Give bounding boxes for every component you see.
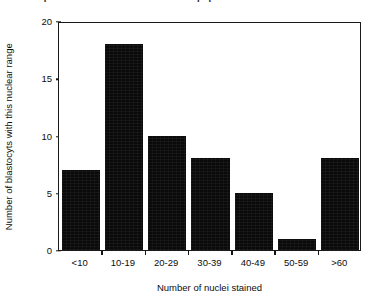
y-axis-tick-label: 20 bbox=[41, 17, 52, 27]
bar bbox=[62, 170, 100, 250]
x-axis-tick-label: <10 bbox=[72, 258, 88, 268]
y-axis-tick-labels: 05101520 bbox=[26, 22, 52, 251]
x-axis-tick-mark bbox=[231, 250, 233, 255]
y-axis-tick-label: 5 bbox=[47, 189, 52, 199]
x-axis-tick-marks bbox=[58, 250, 361, 256]
bar bbox=[321, 158, 359, 250]
x-axis-tick-label: 10-19 bbox=[111, 258, 135, 268]
bar bbox=[278, 239, 316, 250]
x-axis-tick-label: 40-49 bbox=[241, 258, 265, 268]
y-axis-title-text: Number of blastocyts with this nuclear r… bbox=[3, 43, 13, 230]
bar bbox=[235, 193, 273, 250]
x-axis-tick-mark bbox=[274, 250, 276, 255]
bars-layer bbox=[59, 23, 360, 250]
x-axis-tick-mark bbox=[318, 250, 320, 255]
x-axis-tick-mark bbox=[145, 250, 147, 255]
y-axis-tick-label: 0 bbox=[47, 246, 52, 256]
y-axis-title: Number of blastocyts with this nuclear r… bbox=[0, 22, 16, 251]
bar-chart-figure: Number of blastocyts with this nuclear r… bbox=[0, 0, 375, 305]
bar bbox=[105, 44, 143, 250]
x-axis-tick-label: 20-29 bbox=[154, 258, 178, 268]
x-axis-tick-mark bbox=[101, 250, 103, 255]
x-axis-title: Number of nuclei stained bbox=[58, 283, 361, 293]
plot-area-frame bbox=[58, 22, 361, 251]
y-axis-tick-label: 15 bbox=[41, 75, 52, 85]
bar bbox=[148, 136, 186, 251]
x-axis-tick-label: 30-39 bbox=[197, 258, 221, 268]
x-axis-tick-labels: <1010-1920-2930-3940-4950-59>60 bbox=[58, 258, 361, 272]
y-axis-tick-label: 10 bbox=[41, 132, 52, 142]
x-axis-tick-mark bbox=[188, 250, 190, 255]
x-axis-tick-label: 50-59 bbox=[284, 258, 308, 268]
bar bbox=[191, 158, 229, 250]
x-axis-tick-label: >60 bbox=[331, 258, 347, 268]
